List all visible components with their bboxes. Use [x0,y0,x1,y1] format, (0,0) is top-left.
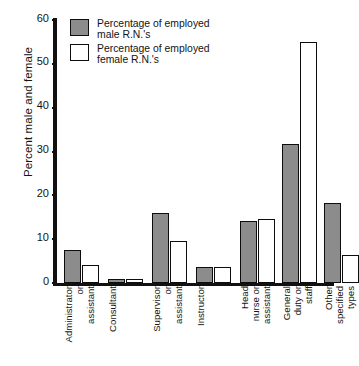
bar [82,265,99,283]
bar [152,213,169,283]
x-axis-category-label: Supervisororassistant [152,286,187,366]
bar [300,42,317,283]
bar [258,219,275,283]
bar [126,279,143,283]
x-axis-label-line: assistant [86,286,96,366]
y-axis-tick-label: 60 [37,13,49,24]
legend-label: Percentage of employed female R.N.'s [97,43,210,66]
legend-label: Percentage of employed male R.N.'s [97,18,210,41]
x-axis-label-line: duty or [293,286,303,366]
x-axis-label-line: Consultant [108,286,118,366]
x-axis-category-label: Headnurse orassistant [240,286,275,366]
x-axis-label-line: Other [324,286,334,366]
legend-item: Percentage of employed female R.N.'s [70,43,285,66]
x-axis-label-line: Head [240,286,250,366]
x-axis-label-line: assistant [262,286,272,366]
bar-group [324,20,359,283]
x-axis-label-line: Administrator [64,286,74,366]
bar [214,267,231,283]
x-axis-label-line: or [75,286,85,366]
x-axis-label-line: Supervisor [152,286,162,366]
x-axis-label-line: specified [335,286,345,366]
x-axis-label-line: nurse or [251,286,261,366]
x-axis-category-label: Instructor [196,286,231,366]
y-axis-tick-label: 30 [37,144,49,155]
chart-legend: Percentage of employed male R.N.'sPercen… [70,18,285,68]
bar [196,267,213,283]
bar [64,250,81,283]
y-axis-tick-label: 40 [37,100,49,111]
legend-item: Percentage of employed male R.N.'s [70,18,285,41]
bar [282,144,299,283]
x-axis-label-line: Instructor [196,286,206,366]
x-axis-category-label: Consultant [108,286,143,366]
legend-swatch-female [70,44,89,61]
y-axis-tick-label: 0 [43,276,49,287]
x-axis-label-line: staff [304,286,314,366]
legend-swatch-male [70,19,89,36]
y-axis-title: Percent male and female [22,12,34,212]
x-axis-category-label: Generalduty orstaff [282,286,317,366]
y-axis-tick-label: 50 [37,56,49,67]
bar [170,241,187,283]
x-axis-category-labels: AdministratororassistantConsultantSuperv… [56,286,334,366]
x-axis-label-line: General [282,286,292,366]
x-axis-label-line: assistant [174,286,184,366]
y-axis-tick-label: 20 [37,188,49,199]
x-axis-label-line: or [163,286,173,366]
bar-group [282,20,317,283]
bar [108,279,125,283]
bar [240,221,257,283]
bar [324,203,341,283]
x-axis-category-label: Administratororassistant [64,286,99,366]
y-axis-tick-label: 10 [37,232,49,243]
bar [342,255,359,283]
x-axis-category-label: Otherspecifiedtypes [324,286,359,366]
x-axis-label-line: types [346,286,356,366]
